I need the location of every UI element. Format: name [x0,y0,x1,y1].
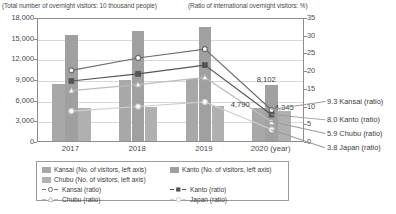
x-label-2020: 2020 (year) [241,144,301,153]
left-tick-label: 0 [0,137,34,146]
legend-label: Kansai (ratio) [62,186,101,193]
x-label-2017: 2017 [40,144,100,153]
left-tick-label: 15,000 [0,34,34,43]
legend-item-kanto-bar: Kanto (No. of visitors, left axis) [170,166,271,173]
marker-kansai-2018 [136,55,141,60]
left-tick-mark [34,142,37,143]
x-label-2018: 2018 [107,144,167,153]
value-label-8102: 8,102 [257,75,276,84]
left-tick-label: 18,000 [0,13,34,22]
legend-item-kanto-line: Kanto (ratio) [170,186,226,193]
left-tick-label: 9,000 [0,75,34,84]
marker-chubu-2018 [136,82,141,87]
legend-item-chubu-line: Chubu (ratio) [42,196,170,203]
chart-legend: Kansai (No. of visitors, left axis) Kant… [36,161,289,201]
legend-item-japan-line: Japan (ratio) [170,196,227,203]
legend-item-chubu-bar: Chubu (No. of visitors, left axis) [42,176,170,183]
legend-label: Chubu (No. of visitors, left axis) [54,176,146,183]
value-label-4790: 4,790 [231,100,250,109]
marker-japan-2019 [202,99,207,104]
left-tick-label: 12,000 [0,54,34,63]
legend-label: Japan (ratio) [190,196,227,203]
right-tick-label: 35 [307,13,327,22]
marker-japan-2017 [69,109,74,114]
chubu-line-icon [42,196,59,203]
left-tick-label: 6,000 [0,96,34,105]
marker-kansai-2017 [69,68,74,73]
legend-label: Chubu (ratio) [62,196,100,203]
end-label-kansai: 9.3 Kansai (ratio) [327,97,383,106]
marker-kanto-2019 [203,63,208,68]
left-axis-caption: (Total number of overnight visitors: 10 … [2,2,157,9]
legend-item-kansai-bar: Kansai (No. of visitors, left axis) [42,166,170,173]
marker-chubu-2019 [202,75,207,80]
kansai-bar-swatch [42,167,51,173]
end-label-japan: 3.8 Japan (ratio) [327,143,381,152]
legend-label: Kansai (No. of visitors, left axis) [54,166,146,173]
legend-label: Kanto (No. of visitors, left axis) [182,166,271,173]
legend-label: Kanto (ratio) [190,186,226,193]
right-tick-label: 25 [307,48,327,57]
legend-row: Chubu (No. of visitors, left axis) [42,175,283,184]
marker-japan-2018 [136,104,141,109]
legend-row: Chubu (ratio) Japan (ratio) [42,195,283,204]
end-label-kanto: 8.0 Kanto (ratio) [327,115,380,124]
kansai-line-icon [42,186,59,193]
legend-row: Kansai (ratio) Kanto (ratio) [42,185,283,194]
marker-kansai-2019 [202,47,207,52]
japan-line-icon [170,196,187,203]
chart-figure: (Total number of overnight visitors: 10 … [0,0,396,214]
legend-row: Kansai (No. of visitors, left axis) Kant… [42,165,283,174]
x-label-2019: 2019 [174,144,234,153]
marker-chubu-2017 [69,88,74,93]
chubu-bar-swatch [42,177,51,183]
right-tick-label: 15 [307,84,327,93]
right-axis-caption: (Ratio of international overnight visito… [188,2,308,9]
right-tick-label: 5 [307,119,327,128]
marker-kanto-2018 [136,72,141,77]
legend-item-kansai-line: Kansai (ratio) [42,186,170,193]
marker-kanto-2017 [69,79,74,84]
right-tick-label: 30 [307,31,327,40]
kanto-bar-swatch [170,167,179,173]
left-tick-label: 3,000 [0,116,34,125]
kanto-line-icon [170,186,187,193]
end-label-chubu: 5.9 Chubu (ratio) [327,129,382,138]
right-tick-label: 20 [307,66,327,75]
